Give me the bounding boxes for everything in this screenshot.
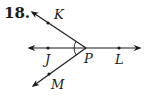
point-m bbox=[47, 72, 50, 75]
angle-mark-jpm bbox=[74, 48, 76, 55]
label-p: P bbox=[83, 51, 93, 66]
angle-mark-kpj bbox=[74, 42, 76, 49]
label-l: L bbox=[114, 52, 124, 67]
label-k: K bbox=[53, 7, 65, 22]
angle-diagram: K J P L M bbox=[0, 0, 147, 97]
label-m: M bbox=[50, 77, 65, 92]
point-j bbox=[46, 46, 49, 49]
label-j: J bbox=[42, 52, 51, 67]
point-l bbox=[117, 46, 120, 49]
point-k bbox=[46, 21, 49, 24]
